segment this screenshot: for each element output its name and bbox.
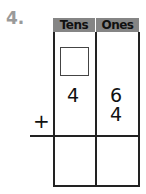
bottom-border [53, 185, 140, 187]
answer-tens-cell[interactable] [55, 137, 94, 184]
answer-ones-cell[interactable] [97, 137, 137, 184]
regroup-box[interactable] [60, 47, 89, 76]
ones-header: Ones [96, 18, 139, 32]
tens-header: Tens [53, 18, 95, 32]
problem-number: 4. [6, 8, 24, 28]
addend2-ones: 4 [110, 105, 122, 124]
right-border [138, 32, 140, 186]
plus-sign: + [33, 111, 50, 131]
addend1-tens: 4 [67, 86, 79, 105]
